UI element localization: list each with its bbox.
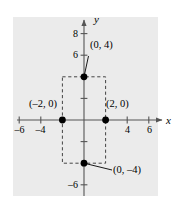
point-marker-top: [81, 73, 88, 80]
x-axis: [17, 117, 162, 124]
point-label-top: (0, 4): [90, 40, 113, 51]
y-tick-label-8: 8: [68, 29, 78, 39]
y-tick-label-neg6: –6: [62, 180, 78, 190]
point-label-bottom: (0, –4): [113, 165, 141, 176]
x-tick-label-neg4: –4: [33, 125, 48, 135]
y-tick-label-6: 6: [68, 50, 78, 60]
leader-lines: [84, 56, 112, 170]
x-axis-label: x: [166, 115, 171, 126]
point-label-right: (2, 0): [106, 99, 129, 110]
point-marker-right: [102, 117, 109, 124]
point-label-left: (–2, 0): [29, 99, 57, 110]
point-marker-bottom: [81, 160, 88, 167]
y-axis: [81, 20, 88, 196]
x-tick-label-neg6: –6: [12, 125, 27, 135]
y-axis-label: y: [94, 14, 99, 25]
coordinate-plane-graphic: [0, 0, 185, 206]
x-tick-label-6: 6: [144, 125, 155, 135]
graph-figure: y x –6 –4 4 6 8 6 –6 (0, 4) (–2, 0) (2, …: [0, 0, 185, 206]
point-marker-left: [59, 117, 66, 124]
x-tick-label-4: 4: [122, 125, 133, 135]
